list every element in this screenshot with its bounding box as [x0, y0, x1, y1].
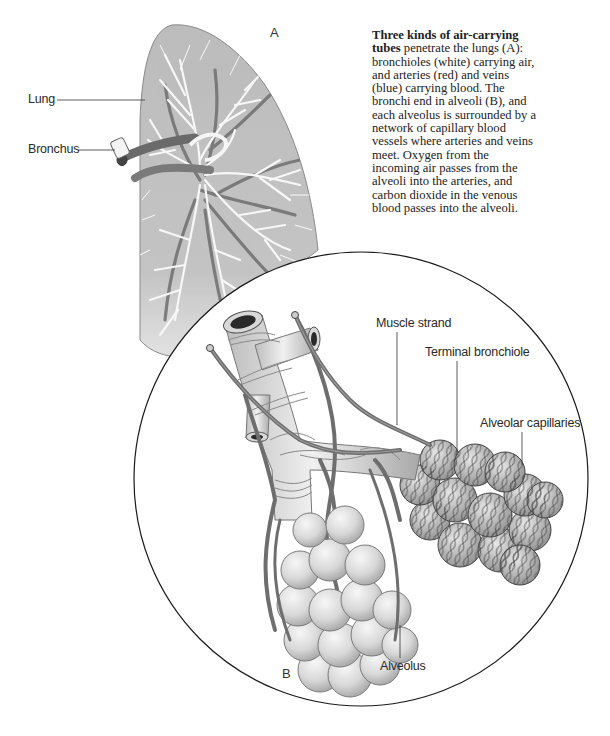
caption-bold-lead-2: tubes	[372, 41, 401, 55]
label-alveolus: Alveolus	[380, 659, 426, 673]
caption-line: incoming air passes from the	[372, 162, 602, 175]
caption-line: bronchi end in alveoli (B), and	[372, 95, 602, 108]
label-muscle-strand: Muscle strand	[376, 316, 451, 330]
caption-line: vessels where arteries and veins	[372, 135, 602, 148]
figure-caption: Three kinds of air-carrying tubes penetr…	[372, 29, 602, 215]
caption-line: meet. Oxygen from the	[372, 149, 602, 162]
caption-line: network of capillary blood	[372, 122, 602, 135]
caption-line: penetrate the lungs (A):	[401, 41, 523, 55]
magnified-view-circle	[134, 252, 588, 706]
caption-line: carbon dioxide in the venous	[372, 189, 602, 202]
caption-line: bronchioles (white) carrying air,	[372, 56, 602, 69]
panel-b-label: B	[282, 666, 291, 681]
caption-line: alveoli into the arteries, and	[372, 175, 602, 188]
caption-line: and arteries (red) and veins	[372, 69, 602, 82]
label-lung: Lung	[28, 92, 55, 106]
cropped-preceding-text	[0, 0, 610, 3]
caption-bold-lead: Three kinds of air-carrying	[372, 28, 519, 42]
label-alveolar-capillaries: Alveolar capillaries	[480, 416, 580, 430]
label-bronchus: Bronchus	[28, 142, 79, 156]
caption-line: blood passes into the alveoli.	[372, 202, 602, 215]
label-terminal-bronchiole: Terminal bronchiole	[425, 345, 530, 359]
caption-line: each alveolus is surrounded by a	[372, 109, 602, 122]
caption-line: (blue) carrying blood. The	[372, 82, 602, 95]
panel-a-label: A	[270, 25, 279, 40]
